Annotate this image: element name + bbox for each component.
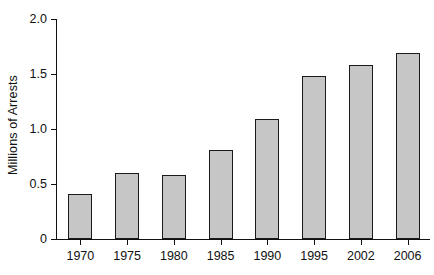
x-tick-label: 1990	[253, 249, 281, 263]
x-tick-label: 2002	[347, 249, 375, 263]
plot-area: 00.51.01.52.0 19701975198019851990199520…	[56, 19, 430, 240]
x-tick-label: 1980	[160, 249, 188, 263]
x-tick-label: 2006	[394, 249, 422, 263]
y-tick-label: 1.5	[30, 67, 47, 81]
x-tick-label: 1985	[207, 249, 235, 263]
x-tick-mark	[408, 240, 409, 245]
bar	[209, 150, 233, 239]
x-tick-mark	[361, 240, 362, 245]
y-tick-mark	[51, 239, 56, 240]
y-tick-label: 2.0	[30, 12, 47, 26]
x-axis-line	[56, 239, 430, 240]
x-tick-mark	[127, 240, 128, 245]
x-tick-label: 1970	[66, 249, 94, 263]
bar	[302, 76, 326, 239]
bar	[255, 119, 279, 239]
y-tick-label: 0.5	[30, 177, 47, 191]
y-axis-title-label: Millions of Arrests	[6, 75, 20, 175]
x-tick-label: 1995	[300, 249, 328, 263]
y-tick-label: 0	[40, 232, 47, 246]
y-tick-label: 1.0	[30, 122, 47, 136]
y-tick-mark	[51, 184, 56, 185]
bar-chart: Millions of Arrests 00.51.01.52.0 197019…	[0, 0, 434, 275]
y-tick-mark	[51, 129, 56, 130]
bar	[349, 65, 373, 239]
x-tick-mark	[314, 240, 315, 245]
bar	[68, 194, 92, 239]
bar	[396, 53, 420, 239]
bar	[115, 173, 139, 239]
y-tick-mark	[51, 19, 56, 20]
x-tick-mark	[174, 240, 175, 245]
y-tick-mark	[51, 74, 56, 75]
x-tick-mark	[221, 240, 222, 245]
x-tick-mark	[80, 240, 81, 245]
bar	[162, 175, 186, 239]
y-axis-line	[56, 19, 57, 240]
y-axis-title: Millions of Arrests	[2, 0, 24, 250]
x-tick-label: 1975	[113, 249, 141, 263]
x-tick-mark	[267, 240, 268, 245]
